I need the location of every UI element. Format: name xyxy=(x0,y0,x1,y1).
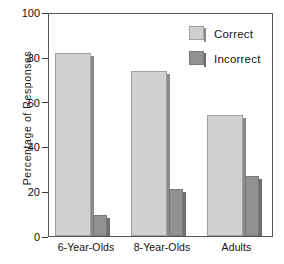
x-axis-tick-labels: 6-Year-Olds 8-Year-Olds Adults xyxy=(48,241,273,261)
x-tick-label-adults: Adults xyxy=(200,241,273,253)
chart-legend: Correct Incorrect xyxy=(189,26,284,76)
legend-swatch-correct-icon xyxy=(189,26,206,42)
bar-6-year-olds-correct xyxy=(55,53,94,236)
legend-item-incorrect: Incorrect xyxy=(189,51,284,67)
y-tick-label-40: 40 xyxy=(16,142,40,153)
bar-body xyxy=(55,53,91,236)
legend-swatch-incorrect-icon xyxy=(189,51,206,67)
bar-chart: Percentage of Responses 100 80 60 40 20 … xyxy=(0,0,284,264)
y-tick-mark-0 xyxy=(42,237,48,238)
bar-body xyxy=(131,71,167,236)
y-tick-label-100: 100 xyxy=(16,8,40,19)
bar-6-year-olds-incorrect xyxy=(93,215,110,236)
bar-adults-incorrect xyxy=(245,176,262,236)
y-tick-label-20: 20 xyxy=(16,187,40,198)
bar-body xyxy=(245,176,259,236)
bar-body xyxy=(169,189,183,237)
x-tick-label-8-year-olds: 8-Year-Olds xyxy=(124,241,200,253)
bar-shadow xyxy=(183,192,186,237)
y-axis-tick-labels: 100 80 60 40 20 0 xyxy=(14,0,40,264)
swatch-body xyxy=(189,51,204,65)
swatch-shadow xyxy=(204,28,206,42)
bar-adults-correct xyxy=(207,115,246,236)
bar-body xyxy=(93,215,107,236)
swatch-shadow xyxy=(204,53,206,67)
y-tick-label-60: 60 xyxy=(16,98,40,109)
bar-8-year-olds-correct xyxy=(131,71,170,236)
y-tick-label-80: 80 xyxy=(16,53,40,64)
bar-8-year-olds-incorrect xyxy=(169,189,186,237)
plot-area: Correct Incorrect xyxy=(48,13,273,237)
bar-shadow xyxy=(259,179,262,236)
legend-item-correct: Correct xyxy=(189,26,284,42)
legend-label-correct: Correct xyxy=(214,28,253,40)
bar-shadow xyxy=(107,218,110,236)
legend-label-incorrect: Incorrect xyxy=(214,53,261,65)
swatch-body xyxy=(189,26,204,40)
bar-shadow xyxy=(91,56,94,236)
x-tick-label-6-year-olds: 6-Year-Olds xyxy=(48,241,124,253)
bar-body xyxy=(207,115,243,236)
y-tick-label-0: 0 xyxy=(16,232,40,243)
